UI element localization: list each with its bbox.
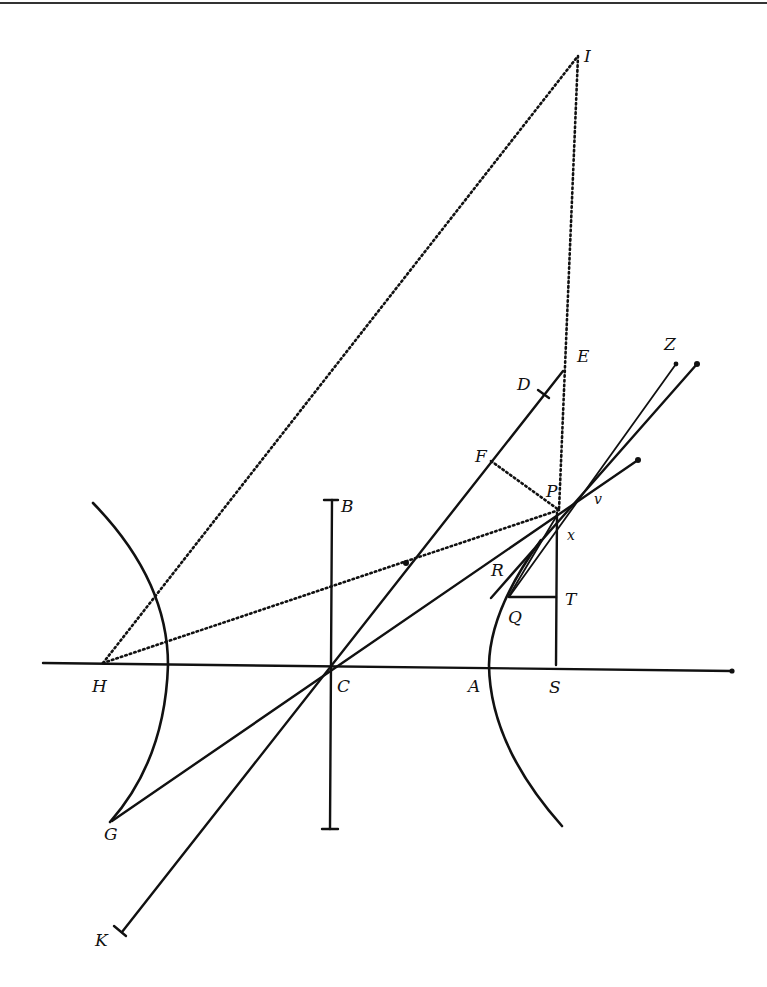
GP-end-dot <box>635 457 641 463</box>
line-ZQ <box>509 364 676 597</box>
intersection-dot <box>403 560 409 566</box>
label-x: x <box>567 527 575 543</box>
label-D: D <box>516 374 531 394</box>
label-R: R <box>490 560 504 580</box>
label-v: v <box>594 491 602 507</box>
label-I: I <box>583 46 591 66</box>
label-K: K <box>94 930 109 950</box>
dotted-IP <box>559 56 578 510</box>
label-T: T <box>565 589 578 609</box>
tangent-end-dot <box>694 361 700 367</box>
line-PS <box>556 513 557 665</box>
diameter-GP <box>112 460 638 821</box>
hyperbola-diagram: I E D Z F P v x B R Q T H C A S G K <box>0 0 767 987</box>
axis-end-dot <box>729 668 734 673</box>
label-P: P <box>545 481 558 501</box>
label-B: B <box>340 496 354 516</box>
label-S: S <box>549 677 561 697</box>
Z-end-dot <box>674 362 679 367</box>
label-C: C <box>337 676 350 696</box>
label-G: G <box>104 824 118 844</box>
label-Z: Z <box>663 334 677 354</box>
dotted-HI <box>103 56 578 663</box>
label-H: H <box>91 676 108 696</box>
transverse-axis <box>43 663 732 671</box>
label-E: E <box>576 346 590 366</box>
label-A: A <box>466 676 480 696</box>
label-Q: Q <box>508 607 522 627</box>
tangent-RP <box>491 364 697 598</box>
label-F: F <box>474 446 488 466</box>
line-QP <box>509 517 556 596</box>
diameter-KE <box>122 371 563 932</box>
